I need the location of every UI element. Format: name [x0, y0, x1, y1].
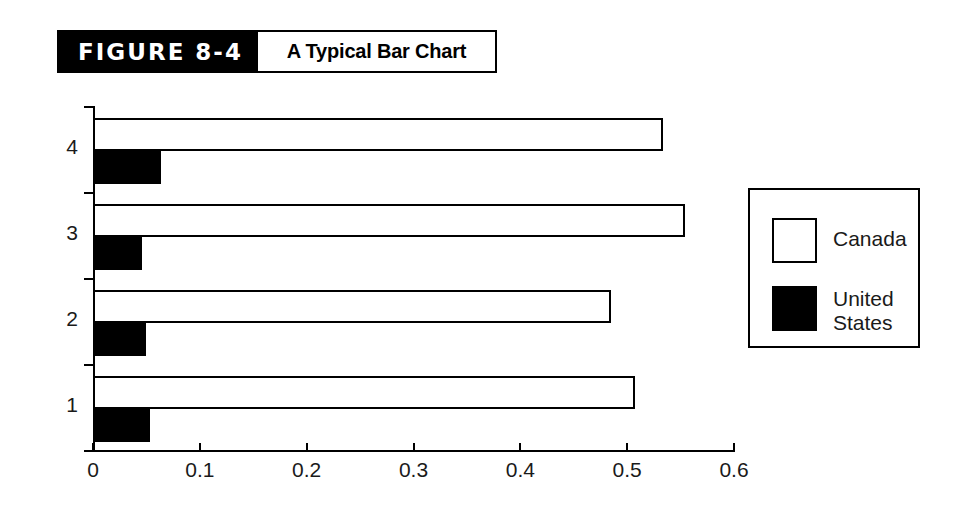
- chart-legend: Canada United States: [748, 188, 920, 348]
- bar-canada: [93, 290, 611, 323]
- x-axis-tick-label: 0.6: [704, 458, 764, 482]
- y-axis-tick-label: 2: [48, 307, 78, 331]
- legend-swatch-canada-icon: [772, 218, 817, 263]
- x-axis-tick-label: 0.3: [384, 458, 444, 482]
- bar-united-states: [93, 151, 161, 184]
- x-axis-tick: [306, 443, 308, 452]
- x-axis-tick: [519, 443, 521, 452]
- y-axis-tick-label: 1: [48, 393, 78, 417]
- legend-item-canada: Canada: [772, 218, 907, 263]
- x-axis-tick: [626, 443, 628, 452]
- bar-canada: [93, 376, 635, 409]
- legend-label-canada: Canada: [833, 218, 907, 251]
- x-axis-tick: [733, 443, 735, 452]
- bar-canada: [93, 204, 685, 237]
- y-axis-tick: [84, 364, 95, 366]
- bar-canada: [93, 118, 663, 151]
- legend-label-united-states: United States: [833, 286, 894, 335]
- x-axis-tick-label: 0: [63, 458, 123, 482]
- legend-swatch-united-states-icon: [772, 286, 817, 331]
- y-axis-tick: [84, 106, 95, 108]
- x-axis-tick: [413, 443, 415, 452]
- x-axis-tick-label: 0.5: [597, 458, 657, 482]
- y-axis-tick-label: 4: [48, 135, 78, 159]
- x-axis-tick-label: 0.2: [277, 458, 337, 482]
- y-axis-tick-label: 3: [48, 221, 78, 245]
- bar-chart: 4321 00.10.20.30.40.50.6 Canada United S…: [0, 0, 969, 517]
- bar-united-states: [93, 409, 150, 442]
- x-axis-tick: [92, 443, 94, 452]
- x-axis-tick-label: 0.1: [170, 458, 230, 482]
- y-axis-tick: [84, 192, 95, 194]
- y-axis-tick: [84, 278, 95, 280]
- x-axis-tick-label: 0.4: [490, 458, 550, 482]
- bar-united-states: [93, 237, 142, 270]
- x-axis-tick: [199, 443, 201, 452]
- y-axis-tick-labels: 4321: [28, 0, 78, 517]
- bar-united-states: [93, 323, 146, 356]
- legend-item-united-states: United States: [772, 286, 894, 335]
